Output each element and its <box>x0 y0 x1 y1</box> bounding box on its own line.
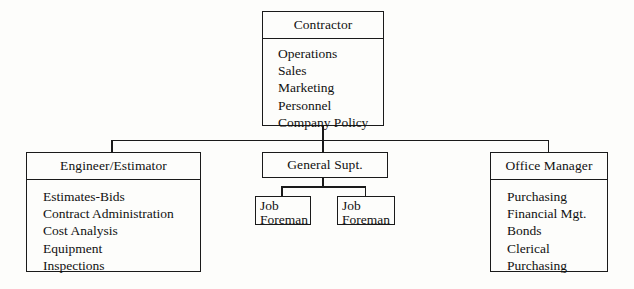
node-job-foreman-1: Job Foreman <box>255 196 311 225</box>
list-item: Personnel <box>278 97 383 114</box>
connector-drop-engineer <box>111 140 113 153</box>
node-engineer-estimator-title: Engineer/Estimator <box>27 153 200 180</box>
node-engineer-estimator-list: Estimates-Bids Contract Administration C… <box>27 180 200 281</box>
node-general-supt-title: General Supt. <box>263 153 387 177</box>
node-office-manager-list: Purchasing Financial Mgt. Bonds Clerical… <box>491 180 607 281</box>
node-office-manager: Office Manager Purchasing Financial Mgt.… <box>490 152 608 272</box>
list-item: Marketing <box>278 79 383 96</box>
node-office-manager-title: Office Manager <box>491 153 607 180</box>
node-job-foreman-1-line1: Job <box>260 199 310 213</box>
list-item: Purchasing <box>507 188 607 205</box>
list-item: Purchasing <box>507 257 607 274</box>
list-item: Sales <box>278 62 383 79</box>
list-item: Contract Administration <box>43 205 200 222</box>
org-chart: Contractor Operations Sales Marketing Pe… <box>0 0 634 289</box>
node-job-foreman-2-line2: Foreman <box>342 213 394 227</box>
connector-foreman-bus <box>281 186 366 188</box>
node-job-foreman-2: Job Foreman <box>337 196 395 225</box>
list-item: Clerical <box>507 240 607 257</box>
connector-drop-office-manager <box>548 140 550 153</box>
connector-main-bus <box>112 140 549 142</box>
connector-drop-general-supt <box>322 140 324 153</box>
node-job-foreman-1-line2: Foreman <box>260 213 310 227</box>
list-item: Company Policy <box>278 114 383 131</box>
list-item: Operations <box>278 45 383 62</box>
node-engineer-estimator: Engineer/Estimator Estimates-Bids Contra… <box>26 152 201 272</box>
list-item: Bonds <box>507 222 607 239</box>
list-item: Inspections <box>43 257 200 274</box>
node-contractor: Contractor Operations Sales Marketing Pe… <box>262 11 384 126</box>
list-item: Financial Mgt. <box>507 205 607 222</box>
connector-drop-foreman-1 <box>281 186 283 196</box>
node-contractor-list: Operations Sales Marketing Personnel Com… <box>263 39 383 138</box>
node-job-foreman-2-line1: Job <box>342 199 394 213</box>
list-item: Equipment <box>43 240 200 257</box>
list-item: Cost Analysis <box>43 222 200 239</box>
node-general-supt: General Supt. <box>262 152 388 178</box>
list-item: Estimates-Bids <box>43 188 200 205</box>
connector-drop-foreman-2 <box>365 186 367 196</box>
node-contractor-title: Contractor <box>263 12 383 39</box>
